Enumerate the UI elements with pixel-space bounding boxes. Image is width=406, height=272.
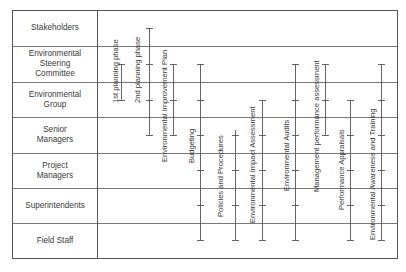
row-label-senior-managers: SeniorManagers bbox=[13, 117, 97, 153]
activity-label-environmental-improvement-plan: Environmental Improvement Plan bbox=[160, 50, 169, 162]
row-label-text: ProjectManagers bbox=[37, 161, 73, 181]
row-label-text: Superintendents bbox=[25, 201, 85, 211]
responsibility-matrix-diagram: StakeholdersEnvironmentalSteeringCommitt… bbox=[0, 0, 406, 272]
activity-label-environmental-impact-assessment: Environmental Impact Assessment bbox=[248, 107, 257, 224]
activity-label-policies-and-procedures: Policies and Procedures bbox=[216, 135, 225, 217]
row-label-text: Field Staff bbox=[37, 236, 74, 246]
row-label-text: Stakeholders bbox=[31, 23, 79, 33]
row-label-project-managers: ProjectManagers bbox=[13, 153, 97, 188]
activity-label-budgeting: Budgeting bbox=[187, 129, 196, 163]
row-label-text: SeniorManagers bbox=[37, 125, 73, 145]
activity-label-management-performance-assessment: Management performance assessment bbox=[312, 60, 321, 192]
row-label-stakeholders: Stakeholders bbox=[13, 10, 97, 46]
row-label-environmental-steering-committee: EnvironmentalSteeringCommittee bbox=[13, 46, 97, 82]
activity-label-1st-planning-phase: 1st planning phase bbox=[111, 39, 120, 103]
row-label-environmental-group: EnvironmentalGroup bbox=[13, 82, 97, 117]
row-label-text: EnvironmentalGroup bbox=[29, 90, 81, 110]
activity-label-performance-appraisals: Performance Appraisals bbox=[337, 129, 346, 210]
row-label-text: EnvironmentalSteeringCommittee bbox=[29, 49, 81, 79]
activity-label-environmental-audits: Environmental Audits bbox=[282, 120, 291, 191]
activity-label-2nd-planning-phase: 2nd planning phase bbox=[133, 37, 142, 103]
row-label-field-staff: Field Staff bbox=[13, 223, 97, 258]
activity-label-environmental-awareness-and-training: Environmental Awareness and Training bbox=[368, 108, 377, 240]
row-label-superintendents: Superintendents bbox=[13, 188, 97, 223]
